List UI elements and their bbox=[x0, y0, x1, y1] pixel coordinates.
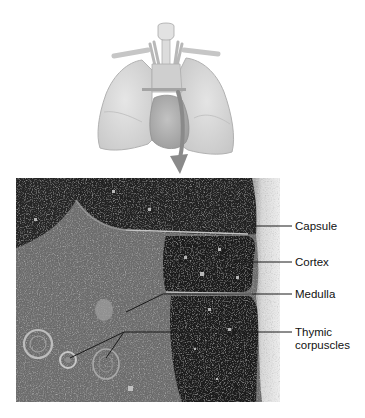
right-lung-icon bbox=[180, 58, 234, 154]
label-medulla: Medulla bbox=[295, 288, 335, 301]
larynx-icon bbox=[158, 23, 174, 41]
label-thymic-corpuscles: Thymic corpuscles bbox=[295, 326, 365, 352]
thymus-icon bbox=[152, 64, 182, 92]
section-plane-marker bbox=[142, 88, 186, 91]
thymus-figure: Capsule Cortex Medulla Thymic corpuscles bbox=[0, 0, 365, 418]
lungs-locator-illustration bbox=[90, 0, 240, 180]
thymus-micrograph bbox=[16, 178, 280, 402]
label-capsule: Capsule bbox=[295, 220, 337, 233]
label-cortex: Cortex bbox=[295, 256, 329, 269]
left-lung-icon bbox=[98, 60, 152, 150]
